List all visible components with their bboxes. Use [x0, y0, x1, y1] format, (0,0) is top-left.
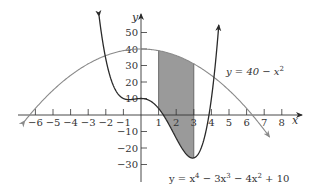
y-tick-label: 50	[125, 27, 138, 38]
x-axis-label: x	[292, 114, 299, 127]
area-between-curves-chart: −6−5−4−3−2−1123456785040302010−10−20−30 …	[0, 0, 317, 193]
y-axis-label: y	[131, 11, 139, 24]
y-tick-label: 30	[125, 60, 138, 71]
x-tick-label: −6	[28, 117, 43, 128]
x-tick-label: 1	[155, 117, 161, 128]
x-tick-label: 3	[191, 117, 197, 128]
y-tick-label: −10	[117, 126, 138, 137]
x-tick-label: 8	[279, 117, 285, 128]
x-tick-label: 6	[243, 117, 249, 128]
x-tick-label: 4	[208, 117, 214, 128]
x-tick-label: −4	[63, 117, 78, 128]
quartic-equation-label: y = x4 − 3x3 − 4x2 + 10	[168, 172, 289, 184]
shaded-region	[159, 51, 194, 158]
parabola-equation-label: y = 40 − x2	[225, 65, 284, 77]
x-tick-label: 2	[173, 117, 179, 128]
x-tick-label: −5	[46, 117, 61, 128]
y-tick-label: −20	[117, 143, 138, 154]
x-tick-label: 5	[226, 117, 232, 128]
y-tick-label: 20	[125, 77, 138, 88]
shaded-area	[159, 51, 194, 158]
x-tick-label: −2	[98, 117, 113, 128]
x-tick-label: −3	[81, 117, 96, 128]
parabola-curve	[25, 49, 270, 137]
y-tick-label: −30	[117, 159, 138, 170]
